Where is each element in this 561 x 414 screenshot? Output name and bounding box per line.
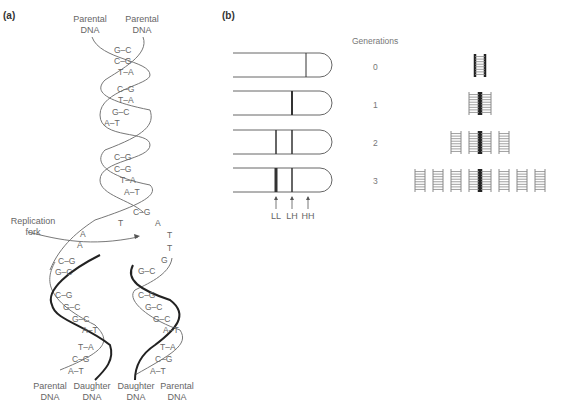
dna-ladders [0,0,561,414]
